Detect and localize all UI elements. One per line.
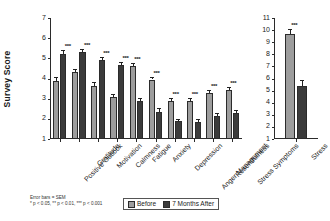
survey-panel: 1234567******************************: [50, 18, 242, 139]
bar-after: [99, 60, 105, 139]
bar-after: [156, 112, 162, 139]
y-axis-tick-label: 11: [263, 14, 270, 21]
error-bar-cap: [119, 62, 123, 63]
significance-marker: ***: [173, 91, 179, 97]
bar-after: [137, 101, 143, 139]
error-bar-cap: [100, 57, 104, 58]
y-axis-tick-mark: [272, 139, 275, 140]
y-axis-tick-label: 1: [266, 135, 270, 142]
bar-after: [233, 113, 239, 139]
y-axis-tick-label: 3: [266, 110, 270, 117]
significance-marker: ***: [291, 22, 297, 28]
y-axis-tick-label: 2: [266, 122, 270, 129]
significance-marker: ***: [134, 56, 140, 62]
x-axis-tick: [98, 139, 99, 142]
x-axis-label: Anxiety: [170, 142, 192, 164]
bar-group: ***: [223, 18, 242, 139]
significance-marker: ***: [153, 70, 159, 76]
y-axis-tick-label: 7: [42, 14, 46, 21]
y-axis-tick-label: 1: [42, 135, 46, 142]
y-axis-tick-label: 6: [266, 74, 270, 81]
bar-before: [91, 86, 97, 139]
error-bar-cap: [61, 50, 65, 51]
error-bar-cap: [288, 29, 292, 30]
significance-marker: ***: [192, 91, 198, 97]
bar-group: ***: [127, 18, 146, 139]
error-bar-cap: [227, 87, 231, 88]
significance-marker: ***: [211, 83, 217, 89]
error-bar-cap: [169, 98, 173, 99]
error-bar-cap: [80, 49, 84, 50]
bar-after: [79, 52, 85, 139]
x-axis-tick: [194, 139, 195, 142]
x-axis-label: Stress: [310, 142, 330, 162]
p-value-note: * p < 0.05, ** p < 0.01, *** p < 0.001: [30, 201, 102, 207]
y-axis-tick-mark: [48, 139, 51, 140]
bar-before: [226, 90, 232, 139]
y-axis-tick-label: 4: [42, 74, 46, 81]
bar-group: ***: [69, 18, 88, 139]
stress-plot-area: 1234567891011***: [274, 18, 318, 139]
x-axis-tick: [232, 139, 233, 142]
legend-swatch-after-icon: [163, 201, 170, 208]
y-axis-tick-label: 6: [42, 34, 46, 41]
error-bar-cap: [196, 119, 200, 120]
y-axis-tick-label: 5: [42, 54, 46, 61]
bar-group: ***: [274, 18, 318, 139]
error-bar-cap: [54, 77, 58, 78]
bar-before: [187, 101, 193, 139]
error-bar-cap: [131, 63, 135, 64]
legend-swatch-before-icon: [128, 201, 135, 208]
bar-before: [53, 81, 59, 139]
bar-group: ***: [204, 18, 223, 139]
y-axis-tick-label: 10: [262, 26, 270, 33]
bar-group: ***: [50, 18, 69, 139]
y-axis-tick-label: 2: [42, 114, 46, 121]
bar-group: ***: [165, 18, 184, 139]
bar-before: [206, 93, 212, 139]
error-bar-cap: [157, 108, 161, 109]
y-axis-tick-label: 5: [266, 86, 270, 93]
error-bar-cap: [73, 69, 77, 70]
bar-group: ***: [88, 18, 107, 139]
x-axis-tick: [175, 139, 176, 142]
y-axis-tick-label: 9: [266, 38, 270, 45]
bar-before: [285, 34, 295, 139]
survey-plot-area: 1234567******************************: [50, 18, 242, 139]
bar-before: [72, 72, 78, 139]
y-axis-tick-label: 7: [266, 62, 270, 69]
y-axis-title: Survey Score: [2, 34, 12, 124]
bar-after: [297, 86, 307, 139]
bar-after: [214, 116, 220, 139]
bar-after: [195, 122, 201, 139]
y-axis-tick-label: 3: [42, 94, 46, 101]
significance-marker: ***: [230, 80, 236, 86]
bar-group: ***: [146, 18, 165, 139]
bar-after: [175, 121, 181, 139]
error-bar-cap: [111, 94, 115, 95]
error-bar-cap: [207, 90, 211, 91]
y-axis-tick-label: 4: [266, 98, 270, 105]
legend-item-after: 7 Months After: [163, 200, 214, 208]
y-axis-tick-label: 8: [266, 50, 270, 57]
bar-group: ***: [184, 18, 203, 139]
error-bar-cap: [176, 119, 180, 120]
bar-after: [60, 54, 66, 139]
x-axis-label: Depression: [193, 142, 224, 173]
bar-before: [130, 66, 136, 139]
x-axis-tick: [213, 139, 214, 142]
legend-label-after: 7 Months After: [172, 200, 214, 208]
stress-panel: 1234567891011***: [274, 18, 318, 139]
error-bar-cap: [234, 110, 238, 111]
error-bar-cap: [92, 82, 96, 83]
error-bar-cap: [300, 80, 304, 81]
bar-after: [118, 65, 124, 139]
bar-group: ***: [108, 18, 127, 139]
legend-label-before: Before: [137, 200, 156, 208]
error-bar-cap: [150, 77, 154, 78]
legend-item-before: Before: [128, 200, 156, 208]
bar-before: [149, 80, 155, 139]
error-bar-cap: [215, 113, 219, 114]
bar-before: [168, 101, 174, 139]
